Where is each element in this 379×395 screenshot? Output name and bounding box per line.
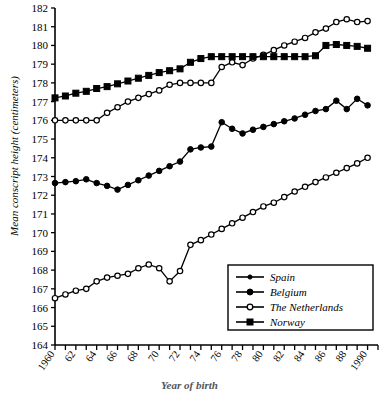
datapoint-spain — [104, 275, 109, 280]
datapoint-norway — [354, 43, 360, 49]
datapoint-belgium — [146, 173, 152, 179]
datapoint-spain — [334, 170, 339, 175]
y-tick-label: 174 — [32, 152, 49, 164]
datapoint-belgium — [219, 119, 225, 125]
legend-marker-norway — [247, 319, 253, 325]
legend-label-spain: Spain — [270, 271, 296, 283]
x-tick-label: 62 — [62, 349, 77, 364]
datapoint-belgium — [334, 98, 340, 104]
chart-figure: Mean conscript height (centimeters) 1641… — [0, 0, 379, 395]
datapoint-the-netherlands — [63, 118, 68, 123]
datapoint-spain — [156, 266, 161, 271]
datapoint-belgium — [104, 183, 110, 189]
y-tick-label: 171 — [32, 208, 49, 220]
datapoint-norway — [333, 42, 339, 48]
datapoint-the-netherlands — [125, 99, 130, 104]
datapoint-the-netherlands — [292, 39, 297, 44]
datapoint-spain — [73, 288, 78, 293]
datapoint-spain — [188, 242, 193, 247]
datapoint-norway — [62, 93, 68, 99]
datapoint-the-netherlands — [104, 110, 109, 115]
datapoint-belgium — [136, 177, 142, 183]
datapoint-spain — [250, 209, 255, 214]
datapoint-the-netherlands — [209, 80, 214, 85]
x-tick-label: 1990 — [348, 349, 369, 373]
datapoint-spain — [282, 194, 287, 199]
datapoint-spain — [84, 286, 89, 291]
datapoint-norway — [52, 95, 58, 101]
datapoint-belgium — [302, 112, 308, 118]
datapoint-the-netherlands — [229, 60, 234, 65]
x-tick-label: 70 — [146, 349, 161, 364]
y-tick-label: 170 — [32, 227, 49, 239]
datapoint-the-netherlands — [73, 118, 78, 123]
y-tick-label: 176 — [32, 114, 49, 126]
datapoint-the-netherlands — [334, 19, 339, 24]
datapoint-the-netherlands — [188, 80, 193, 85]
datapoint-norway — [115, 81, 121, 87]
datapoint-the-netherlands — [365, 18, 370, 23]
datapoint-spain — [229, 221, 234, 226]
datapoint-the-netherlands — [136, 95, 141, 100]
datapoint-belgium — [94, 180, 100, 186]
datapoint-belgium — [365, 103, 371, 109]
x-tick-label: 86 — [313, 349, 328, 364]
datapoint-belgium — [63, 179, 69, 185]
x-tick-label: 78 — [229, 349, 244, 364]
y-tick-label: 175 — [32, 133, 49, 145]
x-tick-label: 1960 — [36, 349, 57, 373]
y-tick-label: 178 — [32, 77, 49, 89]
datapoint-the-netherlands — [52, 118, 57, 123]
x-axis-title: Year of birth — [0, 379, 379, 391]
datapoint-norway — [187, 59, 193, 65]
x-tick-label: 82 — [271, 349, 286, 364]
y-tick-label: 173 — [32, 171, 49, 183]
datapoint-belgium — [292, 116, 298, 122]
datapoint-spain — [146, 262, 151, 267]
y-tick-label: 177 — [32, 96, 49, 108]
datapoint-the-netherlands — [198, 80, 203, 85]
datapoint-belgium — [229, 126, 235, 132]
datapoint-spain — [240, 215, 245, 220]
datapoint-spain — [323, 175, 328, 180]
datapoint-belgium — [281, 118, 287, 124]
y-tick-label: 179 — [32, 58, 49, 70]
datapoint-belgium — [83, 177, 89, 183]
datapoint-spain — [344, 165, 349, 170]
datapoint-the-netherlands — [271, 47, 276, 52]
datapoint-spain — [365, 155, 370, 160]
datapoint-spain — [261, 204, 266, 209]
datapoint-the-netherlands — [177, 80, 182, 85]
datapoint-spain — [115, 273, 120, 278]
datapoint-norway — [198, 56, 204, 62]
datapoint-spain — [94, 279, 99, 284]
datapoint-norway — [125, 78, 131, 84]
datapoint-norway — [177, 66, 183, 72]
x-tick-label: 72 — [167, 349, 182, 364]
datapoint-belgium — [323, 106, 329, 112]
datapoint-spain — [354, 161, 359, 166]
datapoint-spain — [177, 268, 182, 273]
datapoint-spain — [219, 226, 224, 231]
y-tick-label: 169 — [32, 245, 49, 257]
y-tick-label: 167 — [32, 283, 49, 295]
x-tick-label: 84 — [292, 348, 307, 364]
legend-label-belgium: Belgium — [270, 286, 307, 298]
x-tick-label: 76 — [208, 349, 223, 364]
y-tick-label: 182 — [32, 2, 49, 14]
series-line-norway — [55, 45, 368, 98]
datapoint-norway — [219, 54, 225, 60]
y-tick-label: 181 — [32, 21, 49, 33]
x-tick-label: 64 — [83, 348, 98, 364]
datapoint-the-netherlands — [323, 26, 328, 31]
datapoint-the-netherlands — [84, 118, 89, 123]
y-tick-label: 172 — [32, 189, 49, 201]
datapoint-norway — [323, 42, 329, 48]
datapoint-norway — [146, 72, 152, 78]
datapoint-norway — [250, 54, 256, 60]
datapoint-spain — [271, 200, 276, 205]
datapoint-belgium — [313, 108, 319, 114]
datapoint-belgium — [344, 106, 350, 112]
y-tick-label: 168 — [32, 264, 49, 276]
datapoint-belgium — [240, 131, 246, 137]
